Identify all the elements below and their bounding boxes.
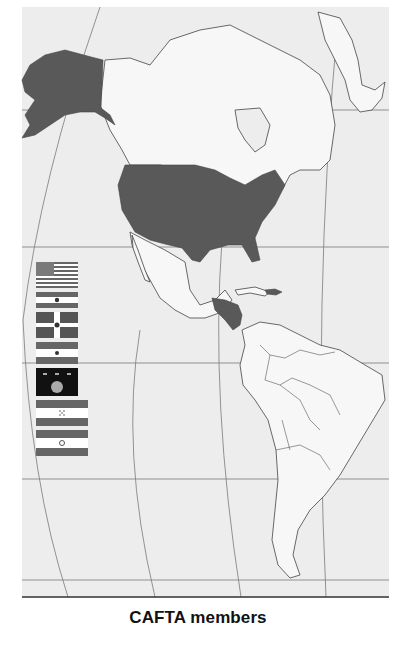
flag-honduras xyxy=(36,400,88,426)
flag-legend xyxy=(36,262,88,456)
flag-united-states xyxy=(36,262,78,288)
flag-guatemala xyxy=(36,430,88,456)
flag-nicaragua xyxy=(36,292,78,308)
flag-dominican-republic xyxy=(36,312,78,338)
flag-costa-rica-placeholder xyxy=(36,368,78,396)
map-caption: CAFTA members xyxy=(0,608,396,628)
flag-el-salvador xyxy=(36,342,78,364)
